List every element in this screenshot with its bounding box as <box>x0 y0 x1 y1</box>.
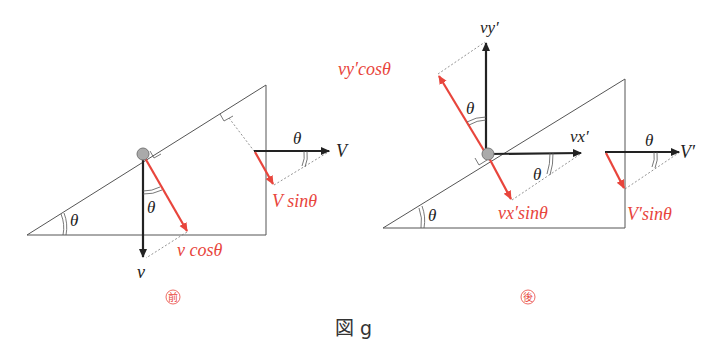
ball <box>137 148 149 160</box>
vx-arrow <box>488 153 581 154</box>
V-sin-component-arrow <box>255 152 273 184</box>
ball-angle-label: θ <box>147 198 155 217</box>
V-label: V <box>336 141 349 161</box>
v-cos-component-arrow <box>145 158 187 231</box>
v-label: v <box>137 262 145 282</box>
ball <box>482 148 494 160</box>
incline-angle-arc <box>61 214 64 235</box>
vy-cos-component-arrow <box>439 76 486 154</box>
before-diagram: θ θ θ v v cosθ V V sinθ 前 <box>27 85 349 304</box>
vx-sin-component-arrow <box>488 156 511 199</box>
vy-angle-label: θ <box>466 99 474 118</box>
figure-caption: 図 g <box>0 313 707 340</box>
after-diagram: θ θ θ θ vy′ vx′ vy′cosθ vx′sinθ V′ V′sin… <box>338 18 696 304</box>
svg-text:前: 前 <box>168 291 178 303</box>
svg-text:後: 後 <box>523 291 533 303</box>
vy-label: vy′ <box>480 18 499 37</box>
V-prime-sin-component-arrow <box>606 153 624 188</box>
vy-cos-label: vy′cosθ <box>338 59 391 79</box>
block-angle-label: θ <box>293 129 301 148</box>
vx-angle-label: θ <box>533 165 541 184</box>
incline-angle-label: θ <box>70 211 78 230</box>
V-sin-label: V sinθ <box>272 191 317 211</box>
vx-label: vx′ <box>570 127 589 146</box>
block-angle-label: θ <box>645 131 653 150</box>
vx-sin-label: vx′sinθ <box>498 203 548 223</box>
v-cos-label: v cosθ <box>177 240 222 260</box>
V-prime-sin-label: V′sinθ <box>627 204 672 224</box>
V-prime-label: V′ <box>680 142 696 162</box>
physics-diagram: θ θ θ v v cosθ V V sinθ 前 <box>0 0 707 343</box>
incline-angle-label: θ <box>428 206 436 225</box>
